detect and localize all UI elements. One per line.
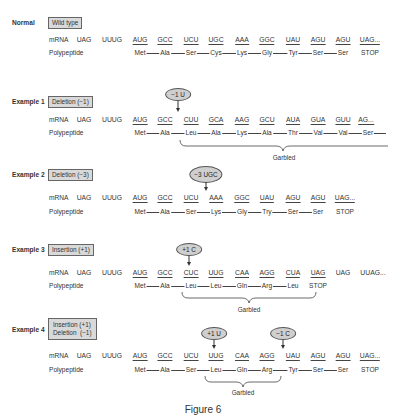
garbled-label: Garbled [232, 389, 255, 396]
figure-caption: Figure 6 [185, 404, 222, 415]
garbled-brace [0, 0, 406, 420]
